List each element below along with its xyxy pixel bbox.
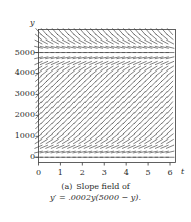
plot-area: y t 010002000300040005000 0123456 [0,0,191,180]
y-tick-label-wrap: 5000 [0,49,35,57]
caption-line-1: (a)Slope field of [0,181,191,192]
y-tick-label: 3000 [15,90,35,98]
y-tick-label-wrap: 4000 [0,69,35,77]
caption-line-2: y′ = .0002y(5000 − y). [0,192,191,203]
slope-field-figure: y t 010002000300040005000 0123456 (a)Slo… [0,0,191,222]
y-tick-label: 4000 [15,69,35,77]
y-tick-label-wrap: 2000 [0,111,35,119]
figure-caption: (a)Slope field of y′ = .0002y(5000 − y). [0,181,191,203]
x-tick-label: 5 [140,169,156,177]
y-tick-label: 1000 [15,132,35,140]
slope-field-marks [34,28,174,157]
y-tick-label-wrap: 1000 [0,132,35,140]
y-axis-label: y [30,19,35,27]
caption-formula: y′ = .0002y(5000 − y). [50,193,141,202]
x-tick-label: 3 [96,169,112,177]
y-tick-label-wrap: 3000 [0,90,35,98]
y-tick-label-wrap: 0 [0,153,35,161]
x-tick-label: 2 [74,169,90,177]
y-tick-label: 0 [30,153,35,161]
y-tick-label: 5000 [15,49,35,57]
caption-text: Slope field of [76,182,129,191]
x-tick-label: 0 [31,169,47,177]
x-tick-label: 1 [52,169,68,177]
x-tick-label: 6 [162,169,178,177]
x-tick-label: 4 [118,169,134,177]
caption-tag: (a) [61,182,72,191]
y-tick-label: 2000 [15,111,35,119]
x-axis-label: t [181,168,184,176]
